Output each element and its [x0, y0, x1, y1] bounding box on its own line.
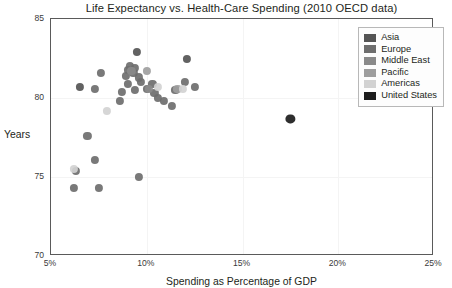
legend-swatch-icon — [364, 57, 376, 65]
data-point — [91, 156, 99, 164]
y-axis-tick-label: 75 — [2, 171, 44, 181]
x-axis-tick-label: 15% — [233, 258, 250, 268]
x-axis-tick-label: 20% — [329, 258, 346, 268]
y-axis-title: Years — [4, 129, 30, 140]
legend-item-united-states[interactable]: United States — [364, 90, 437, 102]
legend-swatch-icon — [364, 34, 376, 42]
x-axis-tick-label: 25% — [424, 258, 441, 268]
data-point — [91, 84, 99, 92]
legend-item-label: Asia — [381, 32, 399, 44]
y-axis-tick-label: 80 — [2, 92, 44, 102]
legend-item-middle-east[interactable]: Middle East — [364, 55, 437, 67]
x-axis-title: Spending as Percentage of GDP — [50, 276, 433, 287]
data-point — [154, 83, 162, 91]
data-point — [135, 173, 143, 181]
gridline-vertical — [147, 19, 148, 254]
legend-item-label: Pacific — [381, 67, 408, 79]
data-point — [102, 107, 110, 115]
data-point — [179, 84, 187, 92]
data-point — [131, 86, 139, 94]
data-point — [70, 184, 78, 192]
gridline-horizontal — [51, 177, 432, 178]
data-point — [168, 102, 176, 110]
data-point — [133, 48, 141, 56]
legend-item-americas[interactable]: Americas — [364, 78, 437, 90]
y-axis-tick-label: 70 — [2, 250, 44, 260]
data-point — [124, 80, 132, 88]
legend-swatch-icon — [364, 45, 376, 53]
data-point — [183, 54, 191, 62]
legend-item-label: Middle East — [381, 55, 430, 67]
legend-item-label: Americas — [381, 78, 420, 90]
legend-item-europe[interactable]: Europe — [364, 44, 437, 56]
y-axis-tick-label: 85 — [2, 13, 44, 23]
data-point — [76, 83, 84, 91]
data-point — [286, 114, 295, 123]
legend-swatch-icon — [364, 69, 376, 77]
legend-swatch-icon — [364, 80, 376, 88]
chart-legend: AsiaEuropeMiddle EastPacificAmericasUnit… — [358, 27, 444, 107]
legend-item-pacific[interactable]: Pacific — [364, 67, 437, 79]
legend-swatch-icon — [364, 92, 376, 100]
chart-title: Life Expectancy vs. Health-Care Spending… — [50, 2, 433, 14]
x-axis-tick-label: 5% — [44, 258, 56, 268]
data-point — [95, 184, 103, 192]
data-point — [97, 69, 105, 77]
data-point — [118, 88, 126, 96]
x-axis-tick-label: 10% — [137, 258, 154, 268]
data-point — [191, 83, 199, 91]
legend-item-label: United States — [381, 90, 437, 102]
gridline-vertical — [243, 19, 244, 254]
data-point — [116, 97, 124, 105]
legend-item-label: Europe — [381, 44, 411, 56]
data-point — [83, 132, 91, 140]
gridline-vertical — [338, 19, 339, 254]
data-point — [143, 67, 151, 75]
scatter-chart-figure: Life Expectancy vs. Health-Care Spending… — [0, 0, 452, 288]
legend-item-asia[interactable]: Asia — [364, 32, 437, 44]
